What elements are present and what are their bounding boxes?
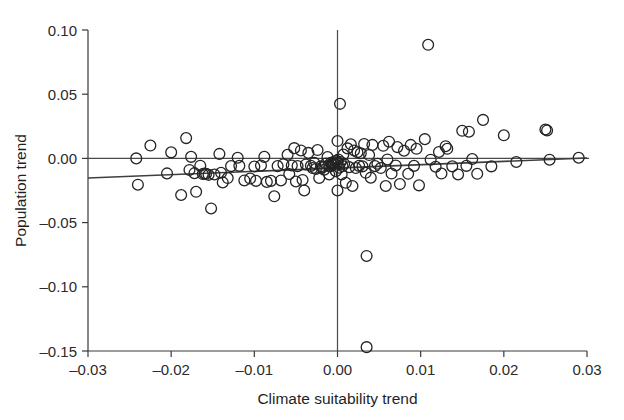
data-point xyxy=(403,168,414,179)
x-tick-label: 0.00 xyxy=(323,361,352,378)
data-point xyxy=(133,179,144,190)
data-point xyxy=(394,179,405,190)
data-point xyxy=(453,169,464,180)
data-point xyxy=(181,133,192,144)
data-point xyxy=(498,130,509,141)
x-axis-title: Climate suitability trend xyxy=(257,390,417,407)
data-point xyxy=(472,168,483,179)
data-point xyxy=(464,126,475,137)
reference-lines xyxy=(88,30,589,351)
data-point xyxy=(269,191,280,202)
y-tick-label: –0.10 xyxy=(39,278,77,295)
data-point xyxy=(145,140,156,151)
data-point xyxy=(367,140,378,151)
data-point xyxy=(380,181,391,192)
data-point xyxy=(419,134,430,145)
data-points xyxy=(131,39,584,352)
x-tick-label: –0.03 xyxy=(69,361,107,378)
y-tick-label: 0.00 xyxy=(48,150,77,167)
data-point xyxy=(340,177,351,188)
y-tick-label: 0.05 xyxy=(48,86,77,103)
data-point xyxy=(414,180,425,191)
data-point xyxy=(162,168,173,179)
data-point xyxy=(214,149,225,160)
data-point xyxy=(423,39,434,50)
scatter-plot-figure: 0.100.050.00–0.05–0.10–0.15–0.03–0.02–0.… xyxy=(0,0,624,420)
x-tick-label: 0.03 xyxy=(572,361,601,378)
y-tick-label: 0.10 xyxy=(48,22,77,39)
data-point xyxy=(436,168,447,179)
x-tick-label: 0.01 xyxy=(406,361,435,378)
plot-canvas: 0.100.050.00–0.05–0.10–0.15–0.03–0.02–0.… xyxy=(0,0,624,420)
y-tick-label: –0.05 xyxy=(39,214,77,231)
data-point xyxy=(312,145,323,156)
data-point xyxy=(314,173,325,184)
data-point xyxy=(186,151,197,162)
data-point xyxy=(176,190,187,201)
data-point xyxy=(239,175,250,186)
data-point xyxy=(296,145,307,156)
data-point xyxy=(234,160,245,171)
data-point xyxy=(478,114,489,125)
data-point xyxy=(299,185,310,196)
data-point xyxy=(347,181,358,192)
x-tick-label: 0.02 xyxy=(489,361,518,378)
data-point xyxy=(289,143,300,154)
data-point xyxy=(297,175,308,186)
x-tick-label: –0.02 xyxy=(152,361,190,378)
y-tick-label: –0.15 xyxy=(39,343,77,360)
data-point xyxy=(335,98,346,109)
data-point xyxy=(166,147,177,158)
axis-group xyxy=(82,30,587,357)
axis-labels: 0.100.050.00–0.05–0.10–0.15–0.03–0.02–0.… xyxy=(12,22,602,408)
data-point xyxy=(399,145,410,156)
data-point xyxy=(361,251,372,262)
data-point xyxy=(392,142,403,153)
data-point xyxy=(191,186,202,197)
x-tick-label: –0.01 xyxy=(236,361,274,378)
data-point xyxy=(206,203,217,214)
y-axis-title: Population trend xyxy=(12,134,29,247)
